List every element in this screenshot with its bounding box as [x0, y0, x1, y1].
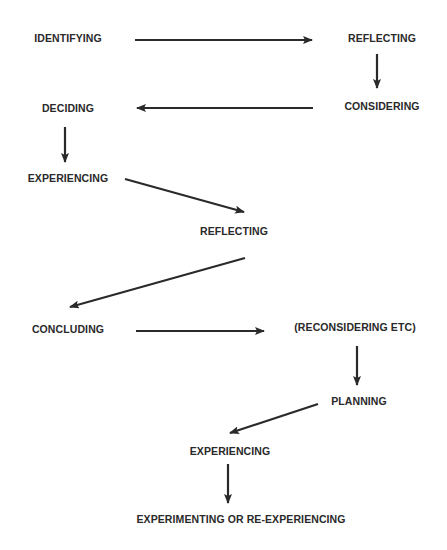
node-experimenting-or-re-experiencing: EXPERIMENTING OR RE-EXPERIENCING: [136, 514, 345, 525]
node-reconsidering-etc: (RECONSIDERING ETC): [294, 322, 416, 333]
node-considering: CONSIDERING: [344, 101, 419, 112]
arrow-n5-to-n6: [125, 179, 244, 212]
node-reflecting-1: REFLECTING: [348, 33, 416, 44]
node-deciding: DECIDING: [42, 103, 94, 114]
node-experiencing-1: EXPERIENCING: [28, 173, 109, 184]
node-identifying: IDENTIFYING: [34, 33, 102, 44]
arrows-layer: [0, 0, 447, 550]
arrow-n6-to-n7: [70, 258, 245, 307]
learning-cycle-diagram: IDENTIFYING REFLECTING CONSIDERING DECID…: [0, 0, 447, 550]
node-reflecting-2: REFLECTING: [200, 226, 268, 237]
arrow-n9-to-n10: [230, 404, 318, 433]
node-experiencing-2: EXPERIENCING: [190, 446, 271, 457]
node-concluding: CONCLUDING: [32, 324, 104, 335]
node-planning: PLANNING: [331, 396, 387, 407]
